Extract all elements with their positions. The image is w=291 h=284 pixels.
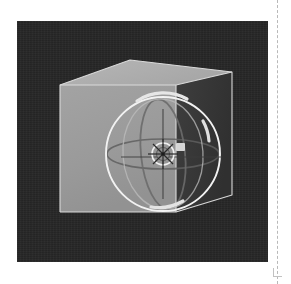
- gizmo-plane-handle[interactable]: [176, 143, 185, 151]
- scene-3d[interactable]: [17, 21, 268, 262]
- page-margin-guide: [277, 0, 278, 284]
- page-root: [0, 0, 291, 284]
- cube-face-front: [60, 85, 176, 212]
- viewport-3d[interactable]: [17, 21, 268, 262]
- cube-object[interactable]: [60, 60, 232, 212]
- page-margin-corner-icon: [273, 268, 282, 277]
